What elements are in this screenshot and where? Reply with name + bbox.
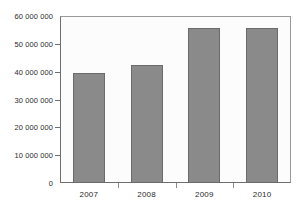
bar-2010 <box>246 28 278 183</box>
y-axis: 010 000 00020 000 00030 000 00040 000 00… <box>0 0 53 210</box>
x-axis-tick-mark <box>233 183 234 188</box>
y-axis-tick-label: 30 000 000 <box>0 95 53 104</box>
x-axis-tick-mark <box>118 183 119 188</box>
x-axis-tick-label: 2007 <box>80 190 99 199</box>
y-axis-tick-label: 60 000 000 <box>0 12 53 21</box>
y-axis-tick-mark <box>55 100 60 101</box>
bar-chart: 010 000 00020 000 00030 000 00040 000 00… <box>0 0 304 210</box>
x-axis-tick-mark <box>176 183 177 188</box>
y-axis-tick-mark <box>55 44 60 45</box>
x-axis-tick-label: 2010 <box>253 190 272 199</box>
y-axis-tick-label: 40 000 000 <box>0 67 53 76</box>
y-axis-tick-mark <box>55 72 60 73</box>
y-axis-tick-mark <box>55 127 60 128</box>
x-axis-tick-label: 2009 <box>195 190 214 199</box>
y-axis-tick-label: 10 000 000 <box>0 151 53 160</box>
y-axis-tick-label: 0 <box>0 179 53 188</box>
x-axis-tick-label: 2008 <box>137 190 156 199</box>
bar-2008 <box>131 65 163 183</box>
bar-2007 <box>73 73 105 183</box>
y-axis-tick-label: 50 000 000 <box>0 39 53 48</box>
bar-2009 <box>188 28 220 183</box>
y-axis-tick-mark <box>55 155 60 156</box>
y-axis-tick-label: 20 000 000 <box>0 123 53 132</box>
